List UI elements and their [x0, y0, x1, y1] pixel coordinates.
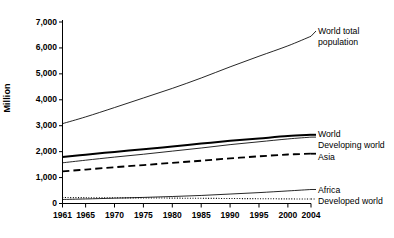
x-tick-label: 1995 — [244, 210, 274, 220]
y-tick-label: 2,000 — [25, 146, 57, 156]
series-label-world: World — [318, 129, 341, 140]
y-axis-ticks — [59, 22, 63, 204]
y-tick-label: 4,000 — [25, 94, 57, 104]
x-axis-ticks — [63, 204, 312, 208]
x-tick-label: 1980 — [157, 210, 187, 220]
series-label-developing-world: Developing world — [318, 140, 385, 151]
series-line — [63, 135, 312, 157]
label-leader-lines — [311, 31, 316, 199]
series-line — [63, 154, 312, 172]
x-tick-label: 1975 — [128, 210, 158, 220]
series-label-world-total-population: World total population — [318, 26, 359, 47]
x-tick-label: 2004 — [296, 210, 326, 220]
x-tick-label: 1970 — [100, 210, 130, 220]
y-tick-label: 3,000 — [25, 120, 57, 130]
y-tick-label: 6,000 — [25, 42, 57, 52]
series-label-africa: Africa — [318, 185, 340, 196]
x-tick-label: 1985 — [186, 210, 216, 220]
x-tick-label: 1990 — [215, 210, 245, 220]
series-line — [63, 137, 312, 163]
y-tick-label: 0 — [25, 198, 57, 208]
data-series-group — [63, 36, 312, 199]
series-label-asia: Asia — [318, 152, 335, 163]
leader-line-world-total-population — [311, 31, 316, 36]
y-tick-label: 1,000 — [25, 172, 57, 182]
y-axis-title: Million — [2, 68, 12, 128]
x-tick-label: 1965 — [71, 210, 101, 220]
series-line — [63, 36, 312, 123]
series-label-developed-world: Developed world — [318, 196, 383, 207]
line-chart: Million 01,0002,0003,0004,0005,0006,0007… — [0, 0, 394, 238]
y-tick-label: 7,000 — [25, 17, 57, 27]
y-tick-label: 5,000 — [25, 68, 57, 78]
